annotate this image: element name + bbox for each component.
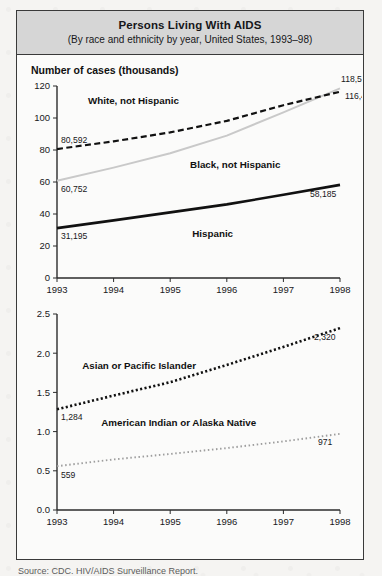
series-start-value-label: 559 xyxy=(61,470,76,480)
source-note: Source: CDC. HIV/AIDS Surveillance Repor… xyxy=(18,566,364,576)
series-end-value-label: 118,525 xyxy=(341,76,362,84)
x-tick-label: 1996 xyxy=(216,516,237,527)
series-end-value-label: 58,185 xyxy=(310,189,337,199)
figure-title-box: Persons Living With AIDS (By race and et… xyxy=(17,11,363,55)
x-tick-label: 1994 xyxy=(103,284,124,295)
y-tick-label: 0 xyxy=(45,272,50,283)
series-line xyxy=(57,434,340,466)
series-line xyxy=(57,185,340,228)
x-tick-label: 1997 xyxy=(273,516,294,527)
y-tick-label: 0.0 xyxy=(37,504,50,515)
y-tick-label: 2.5 xyxy=(37,308,50,319)
y-tick-label: 1.5 xyxy=(37,387,50,398)
y-tick-label: 80 xyxy=(39,144,50,155)
x-tick-label: 1995 xyxy=(160,284,181,295)
x-tick-label: 1995 xyxy=(160,516,181,527)
x-tick-label: 1998 xyxy=(329,516,350,527)
series-start-value-label: 60,752 xyxy=(61,184,88,194)
x-tick-label: 1996 xyxy=(216,284,237,295)
top-chart-axis-note: Number of cases (thousands) xyxy=(31,64,363,76)
figure-subtitle: (By race and ethnicity by year, United S… xyxy=(23,33,357,47)
series-name-label: Asian or Pacific Islander xyxy=(82,360,196,371)
top-chart: 0204060801001201993199419951996199719988… xyxy=(17,76,363,304)
bottom-chart: 0.00.51.01.52.02.51993199419951996199719… xyxy=(17,304,363,536)
x-tick-label: 1993 xyxy=(46,516,67,527)
series-name-label: Black, not Hispanic xyxy=(190,159,281,170)
x-tick-label: 1993 xyxy=(46,284,67,295)
x-tick-label: 1994 xyxy=(103,516,124,527)
y-tick-label: 120 xyxy=(34,80,50,91)
top-chart-svg: 0204060801001201993199419951996199719988… xyxy=(17,76,362,304)
x-tick-label: 1998 xyxy=(329,284,350,295)
figure-title: Persons Living With AIDS xyxy=(23,18,357,32)
series-end-value-label: 971 xyxy=(318,437,333,447)
bottom-chart-svg: 0.00.51.01.52.02.51993199419951996199719… xyxy=(17,304,362,536)
x-tick-label: 1997 xyxy=(273,284,294,295)
figure-container: Persons Living With AIDS (By race and et… xyxy=(16,10,364,560)
series-start-value-label: 80,592 xyxy=(61,135,88,145)
series-name-label: Hispanic xyxy=(192,228,233,239)
series-start-value-label: 1,284 xyxy=(61,412,83,422)
y-tick-label: 0.5 xyxy=(37,465,50,476)
y-tick-label: 60 xyxy=(39,176,50,187)
series-end-value-label: 116,445 xyxy=(345,91,362,101)
series-name-label: White, not Hispanic xyxy=(88,95,179,106)
y-tick-label: 40 xyxy=(39,208,50,219)
y-tick-label: 20 xyxy=(39,240,50,251)
y-tick-label: 2.0 xyxy=(37,348,50,359)
y-tick-label: 1.0 xyxy=(37,426,50,437)
series-name-label: American Indian or Alaska Native xyxy=(101,417,256,428)
series-start-value-label: 31,195 xyxy=(61,231,88,241)
series-end-value-label: 2,320 xyxy=(314,332,336,342)
y-tick-label: 100 xyxy=(34,112,50,123)
